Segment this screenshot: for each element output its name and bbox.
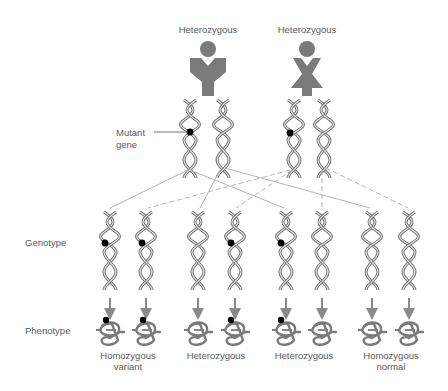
parent1-chromosome-normal [214, 100, 233, 178]
inheritance-lines [110, 168, 408, 208]
group-label-heterozygous-2: Heterozygous [275, 350, 334, 361]
group-label-homozygous-normal: Homozygous normal [363, 350, 418, 372]
male-figure-icon [190, 41, 226, 96]
offspring-chromosomes [101, 212, 419, 290]
phenotype-proteins [96, 323, 423, 345]
parent1-chromosome-mutant [181, 100, 200, 178]
group-label-line1: Homozygous [100, 350, 155, 361]
group-label-heterozygous-1: Heterozygous [187, 350, 246, 361]
group-label-line2: normal [363, 361, 418, 372]
phenotype-row-label: Phenotype [25, 325, 70, 336]
mutant-gene-label-line1: Mutant [116, 127, 145, 138]
group-label-homozygous-variant: Homozygous variant [100, 350, 155, 372]
group-label-line2: variant [100, 361, 155, 372]
mutant-gene-label-line2: gene [116, 139, 137, 150]
parent2-chromosome-normal [315, 100, 334, 178]
parent1-label: Heterozygous [179, 24, 238, 35]
female-figure-icon [291, 41, 323, 96]
parent2-label: Heterozygous [278, 24, 337, 35]
expression-arrows [110, 298, 409, 314]
group-label-line1: Homozygous [363, 350, 418, 361]
group-label-line1: Heterozygous [275, 350, 334, 361]
genotype-row-label: Genotype [25, 237, 66, 248]
mutant-gene-dot [287, 130, 294, 137]
parent2-chromosome-mutant [285, 100, 304, 178]
group-label-line1: Heterozygous [187, 350, 246, 361]
